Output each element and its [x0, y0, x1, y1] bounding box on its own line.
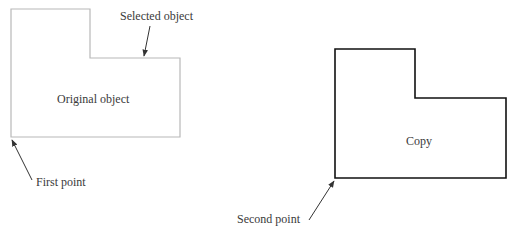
diagram-svg	[0, 0, 516, 236]
copy-label: Copy	[406, 135, 432, 147]
selected-object-arrow	[144, 26, 150, 56]
diagram-canvas: Selected object Original object First po…	[0, 0, 516, 236]
first-point-label: First point	[36, 176, 86, 188]
copy-object-shape	[335, 49, 506, 178]
original-object-shape	[11, 9, 180, 137]
original-object-label: Original object	[57, 93, 129, 105]
selected-object-label: Selected object	[120, 10, 193, 22]
second-point-label: Second point	[237, 213, 300, 225]
second-point-arrow	[309, 181, 334, 220]
first-point-arrow	[12, 140, 32, 180]
